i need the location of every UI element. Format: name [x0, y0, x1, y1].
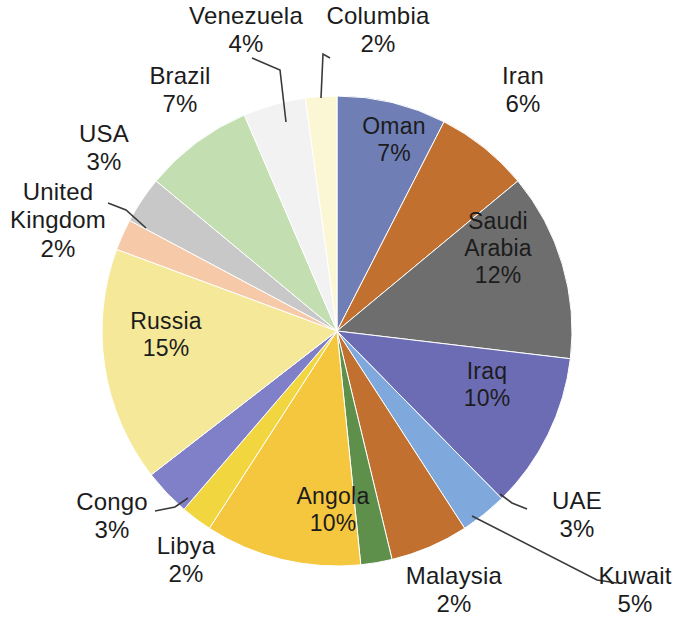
slice-label-saudi-arabia-line2: Arabia — [442, 235, 554, 262]
slice-label-malaysia: Malaysia 2% — [384, 562, 524, 619]
slice-label-angola-pct: 10% — [272, 510, 394, 537]
slice-label-uae-pct: 3% — [530, 515, 624, 543]
slice-label-russia-pct: 15% — [108, 335, 224, 362]
leader-line-columbia — [321, 54, 330, 98]
slice-label-angola-name: Angola — [272, 483, 394, 510]
slice-label-russia-name: Russia — [108, 308, 224, 335]
slice-label-united-kingdom-pct: 2% — [0, 235, 116, 263]
slice-label-iran-pct: 6% — [468, 90, 578, 118]
slice-label-oman: Oman 7% — [340, 113, 448, 167]
slice-label-brazil-name: Brazil — [126, 62, 234, 90]
slice-label-columbia-pct: 2% — [308, 30, 448, 58]
slice-label-libya-name: Libya — [138, 532, 234, 560]
slice-label-brazil: Brazil 7% — [126, 62, 234, 119]
slice-label-iraq-name: Iraq — [436, 358, 538, 385]
slice-label-kuwait-pct: 5% — [583, 590, 687, 618]
slice-label-malaysia-name: Malaysia — [384, 562, 524, 590]
slice-label-congo-name: Congo — [60, 488, 164, 516]
slice-label-columbia-name: Columbia — [308, 2, 448, 30]
slice-label-usa-pct: 3% — [54, 148, 154, 176]
slice-label-saudi-arabia: Saudi Arabia 12% — [442, 208, 554, 289]
slice-label-venezuela-pct: 4% — [166, 30, 326, 58]
slice-label-saudi-arabia-line1: Saudi — [442, 208, 554, 235]
slice-label-united-kingdom-line2: Kingdom — [0, 206, 116, 234]
slice-label-angola: Angola 10% — [272, 483, 394, 537]
slice-label-venezuela: Venezuela 4% — [166, 2, 326, 59]
slice-label-russia: Russia 15% — [108, 308, 224, 362]
slice-label-united-kingdom-line1: United — [0, 178, 116, 206]
slice-label-iran-name: Iran — [468, 62, 578, 90]
slice-label-libya: Libya 2% — [138, 532, 234, 589]
slice-label-uae: UAE 3% — [530, 487, 624, 544]
slice-label-kuwait: Kuwait 5% — [583, 562, 687, 619]
slice-label-oman-name: Oman — [340, 113, 448, 140]
leader-line-uae — [500, 494, 527, 509]
slice-label-usa: USA 3% — [54, 120, 154, 177]
slice-label-iraq-pct: 10% — [436, 385, 538, 412]
slice-label-saudi-arabia-pct: 12% — [442, 262, 554, 289]
slice-label-uae-name: UAE — [530, 487, 624, 515]
slice-label-iraq: Iraq 10% — [436, 358, 538, 412]
slice-label-kuwait-name: Kuwait — [583, 562, 687, 590]
slice-label-oman-pct: 7% — [340, 140, 448, 167]
slice-label-malaysia-pct: 2% — [384, 590, 524, 618]
slice-label-brazil-pct: 7% — [126, 90, 234, 118]
slice-label-venezuela-name: Venezuela — [166, 2, 326, 30]
slice-label-iran: Iran 6% — [468, 62, 578, 119]
slice-label-usa-name: USA — [54, 120, 154, 148]
slice-label-united-kingdom: United Kingdom 2% — [0, 178, 116, 263]
slice-label-libya-pct: 2% — [138, 560, 234, 588]
pie-chart: Venezuela 4% Columbia 2% Brazil 7% USA 3… — [0, 0, 689, 637]
slice-label-columbia: Columbia 2% — [308, 2, 448, 59]
